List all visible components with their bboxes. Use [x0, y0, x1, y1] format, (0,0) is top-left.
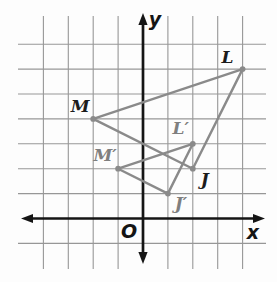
y-axis-label: y	[149, 8, 163, 30]
origin-label: O	[121, 220, 137, 242]
vertex-label-j-prime: J′	[172, 193, 188, 213]
y-axis-arrowhead-down	[138, 252, 147, 264]
vertex-label-m: M	[70, 96, 91, 116]
y-axis-arrowhead-up	[138, 13, 147, 25]
x-axis-arrowhead-left	[21, 214, 33, 223]
vertex-dot-l-prime	[190, 141, 196, 147]
coordinate-plane: LMJL′M′J′ y x O	[0, 0, 277, 282]
x-axis-label: x	[246, 221, 260, 243]
vertex-dot-j	[190, 166, 196, 172]
vertex-label-m-prime: M′	[92, 145, 117, 165]
vertex-label-j: J	[198, 169, 210, 189]
vertex-dot-m-prime	[115, 166, 121, 172]
vertex-dot-l	[240, 66, 246, 72]
vertex-label-l-prime: L′	[172, 118, 190, 138]
vertex-dot-j-prime	[165, 191, 171, 197]
labels-layer: LMJL′M′J′	[70, 47, 234, 214]
dilation-graph-figure: LMJL′M′J′ y x O	[0, 0, 277, 282]
vertex-dot-m	[90, 116, 96, 122]
vertex-label-l: L	[221, 47, 234, 67]
